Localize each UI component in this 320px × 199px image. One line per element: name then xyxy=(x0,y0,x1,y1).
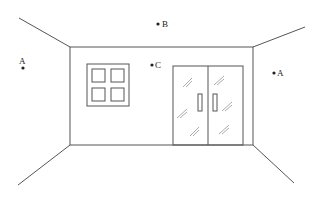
point-a-right: A xyxy=(272,68,284,78)
label-b: B xyxy=(162,19,168,29)
label-a-left: A xyxy=(19,56,26,66)
floor-edge-left xyxy=(18,145,70,185)
room-diagram: A B C A xyxy=(0,0,320,199)
door-handle-right xyxy=(213,94,217,111)
glass-reflections xyxy=(177,76,232,136)
ceiling-edge-right xyxy=(253,27,305,47)
label-c: C xyxy=(155,60,161,70)
window xyxy=(87,64,129,106)
door-handle-left xyxy=(198,94,202,111)
point-c: C xyxy=(150,60,161,70)
double-door xyxy=(173,66,243,145)
point-a-left: A xyxy=(19,56,26,70)
point-b: B xyxy=(156,19,168,29)
floor-edge-right xyxy=(253,145,294,183)
label-a-right: A xyxy=(277,68,284,78)
ceiling-edge-left xyxy=(19,18,70,47)
back-wall xyxy=(70,47,253,145)
